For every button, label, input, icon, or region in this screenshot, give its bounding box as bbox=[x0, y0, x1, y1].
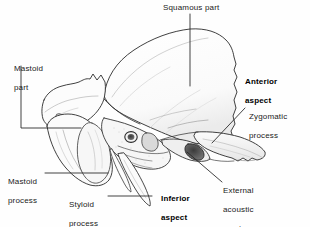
label-zygomatic-process-line1: Zygomatic bbox=[249, 112, 287, 121]
anatomy-figure: Squamous part Mastoid part Anterior aspe… bbox=[0, 0, 310, 227]
label-styloid-process-line2: process bbox=[69, 219, 98, 227]
label-external-acoustic-meatus-line3: meatus bbox=[223, 224, 250, 227]
label-mastoid-part-line2: part bbox=[14, 83, 28, 92]
label-mastoid-process-line2: process bbox=[8, 196, 37, 205]
label-inferior-aspect-line2: aspect bbox=[161, 213, 187, 222]
label-inferior-aspect: Inferior aspect bbox=[161, 185, 190, 223]
label-styloid-process: Styloid process bbox=[69, 191, 98, 227]
label-external-acoustic-meatus-line1: External bbox=[223, 186, 254, 195]
label-anterior-aspect-line1: Anterior bbox=[245, 77, 277, 86]
label-external-acoustic-meatus-line2: acoustic bbox=[223, 205, 254, 214]
leader-external-acoustic-meatus bbox=[187, 152, 222, 182]
label-anterior-aspect: Anterior aspect bbox=[245, 68, 277, 106]
label-zygomatic-process-line2: process bbox=[249, 131, 278, 140]
label-zygomatic-process: Zygomatic process bbox=[249, 103, 287, 141]
label-mastoid-part: Mastoid part bbox=[14, 55, 43, 93]
label-external-acoustic-meatus: External acoustic meatus bbox=[223, 177, 254, 227]
label-squamous-part: Squamous part bbox=[163, 3, 219, 12]
leader-zygomatic-process bbox=[212, 108, 245, 143]
label-mastoid-process: Mastoid process bbox=[8, 168, 37, 206]
label-mastoid-process-line1: Mastoid bbox=[8, 177, 37, 186]
label-styloid-process-line1: Styloid bbox=[69, 200, 94, 209]
label-mastoid-part-line1: Mastoid bbox=[14, 64, 43, 73]
label-inferior-aspect-line1: Inferior bbox=[161, 194, 190, 203]
